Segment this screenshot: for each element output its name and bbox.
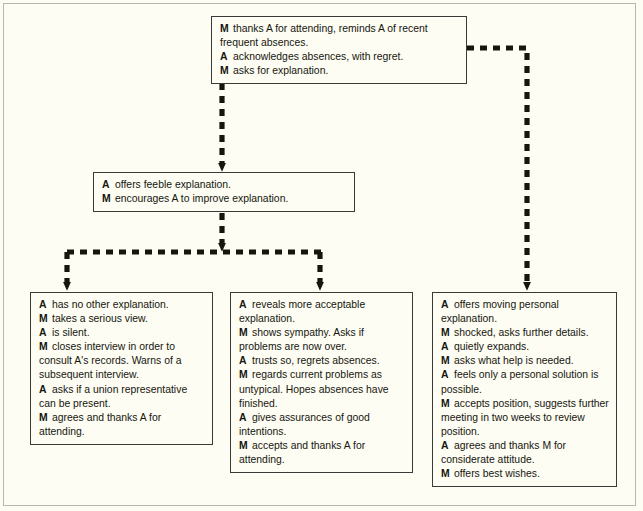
dialogue-line: Aagrees and thanks M for considerate att… [441, 439, 609, 467]
speaker-label: A [441, 439, 454, 453]
flowchart-diagram: Mthanks A for attending, reminds A of re… [0, 0, 643, 511]
dialogue-line: Moffers best wishes. [441, 467, 609, 481]
dialogue-text: asks if a union representative can be pr… [39, 384, 187, 409]
dialogue-text: offers best wishes. [454, 468, 540, 479]
speaker-label: M [441, 397, 454, 411]
speaker-label: M [39, 312, 52, 326]
dialogue-line: Maccepts position, suggests further meet… [441, 397, 609, 439]
speaker-label: A [39, 383, 52, 397]
dialogue-text: offers feeble explanation. [115, 179, 231, 190]
dialogue-text: accepts and thanks A for attending. [239, 440, 365, 465]
dialogue-line: Mshows sympathy. Asks if problems are no… [239, 326, 405, 354]
dialogue-line: Aquietly expands. [441, 340, 609, 354]
speaker-label: A [239, 411, 252, 425]
speaker-label: M [220, 64, 233, 78]
dialogue-text: reveals more acceptable explanation. [239, 299, 365, 324]
no-explanation-outcome-node: Ahas no other explanation.Mtakes a serio… [30, 292, 213, 445]
dialogue-text: takes a serious view. [52, 313, 148, 324]
dialogue-line: Mregards current problems as untypical. … [239, 368, 405, 410]
dialogue-line: Mcloses interview in order to consult A'… [39, 340, 205, 382]
speaker-label: M [239, 368, 252, 382]
dialogue-line: Maccepts and thanks A for attending. [239, 439, 405, 467]
speaker-label: M [39, 411, 52, 425]
dialogue-line: Aacknowledges absences, with regret. [220, 50, 459, 64]
speaker-label: M [102, 192, 115, 206]
dialogue-text: encourages A to improve explanation. [115, 193, 288, 204]
personal-explanation-outcome-node: Aoffers moving personal explanation.Msho… [432, 292, 617, 487]
speaker-label: A [39, 326, 52, 340]
dialogue-line: Ahas no other explanation. [39, 298, 205, 312]
dialogue-text: quietly expands. [454, 341, 529, 352]
speaker-label: M [441, 354, 454, 368]
dialogue-line: Ais silent. [39, 326, 205, 340]
speaker-label: A [239, 298, 252, 312]
speaker-label: A [39, 298, 52, 312]
opening-to-personal-connector [467, 48, 527, 283]
speaker-label: A [441, 340, 454, 354]
speaker-label: A [102, 178, 115, 192]
speaker-label: A [220, 50, 233, 64]
speaker-label: A [441, 368, 454, 382]
dialogue-line: Agives assurances of good intentions. [239, 411, 405, 439]
dialogue-text: agrees and thanks A for attending. [39, 412, 161, 437]
dialogue-text: shocked, asks further details. [454, 327, 589, 338]
dialogue-line: Areveals more acceptable explanation. [239, 298, 405, 326]
dialogue-line: Mshocked, asks further details. [441, 326, 609, 340]
speaker-label: M [220, 22, 233, 36]
dialogue-text: feels only a personal solution is possib… [441, 369, 598, 394]
dialogue-line: Aoffers moving personal explanation. [441, 298, 609, 326]
dialogue-text: acknowledges absences, with regret. [233, 51, 403, 62]
speaker-label: M [239, 326, 252, 340]
dialogue-line: Mthanks A for attending, reminds A of re… [220, 22, 459, 50]
dialogue-text: has no other explanation. [52, 299, 169, 310]
speaker-label: M [239, 439, 252, 453]
dialogue-text: trusts so, regrets absences. [252, 355, 380, 366]
dialogue-text: asks for explanation. [233, 65, 328, 76]
dialogue-line: Atrusts so, regrets absences. [239, 354, 405, 368]
dialogue-line: Mtakes a serious view. [39, 312, 205, 326]
speaker-label: A [239, 354, 252, 368]
dialogue-text: agrees and thanks M for considerate atti… [441, 440, 566, 465]
dialogue-line: Afeels only a personal solution is possi… [441, 368, 609, 396]
speaker-label: M [441, 326, 454, 340]
feeble-explanation-node: Aoffers feeble explanation.Mencourages A… [93, 172, 355, 212]
dialogue-text: regards current problems as untypical. H… [239, 369, 389, 408]
dialogue-text: shows sympathy. Asks if problems are now… [239, 327, 364, 352]
dialogue-line: Aoffers feeble explanation. [102, 178, 347, 192]
dialogue-text: thanks A for attending, reminds A of rec… [220, 23, 428, 48]
dialogue-text: is silent. [52, 327, 90, 338]
dialogue-line: Masks what help is needed. [441, 354, 609, 368]
dialogue-line: Mencourages A to improve explanation. [102, 192, 347, 206]
dialogue-line: Magrees and thanks A for attending. [39, 411, 205, 439]
dialogue-line: Aasks if a union representative can be p… [39, 383, 205, 411]
dialogue-text: gives assurances of good intentions. [239, 412, 370, 437]
acceptable-explanation-outcome-node: Areveals more acceptable explanation.Msh… [230, 292, 413, 473]
speaker-label: M [441, 467, 454, 481]
dialogue-text: offers moving personal explanation. [441, 299, 559, 324]
speaker-label: M [39, 340, 52, 354]
dialogue-text: closes interview in order to consult A's… [39, 341, 182, 380]
dialogue-line: Masks for explanation. [220, 64, 459, 78]
dialogue-text: asks what help is needed. [454, 355, 574, 366]
dialogue-text: accepts position, suggests further meeti… [441, 398, 609, 437]
opening-node: Mthanks A for attending, reminds A of re… [211, 16, 467, 84]
speaker-label: A [441, 298, 454, 312]
